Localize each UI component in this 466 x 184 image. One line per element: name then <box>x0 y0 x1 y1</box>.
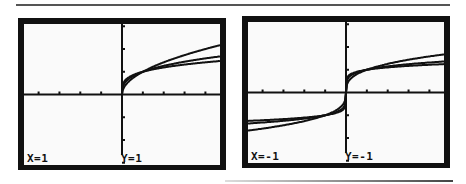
graph-plot-right <box>242 16 450 168</box>
graph-plot-left <box>18 18 226 170</box>
calculator-screen-right: X=-1 Y=-1 <box>242 16 450 168</box>
trace-x-label: X=-1 <box>251 151 280 162</box>
trace-y-label: Y=-1 <box>345 151 374 162</box>
bottom-rule <box>225 180 453 182</box>
top-rule <box>16 4 450 6</box>
trace-y-label: Y=1 <box>121 153 142 164</box>
trace-x-label: X=1 <box>27 153 48 164</box>
calculator-screen-left: X=1 Y=1 <box>18 18 226 170</box>
